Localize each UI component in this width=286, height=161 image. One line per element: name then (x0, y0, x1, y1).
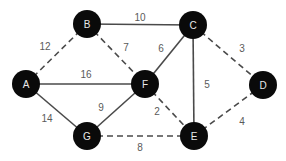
node-label: G (83, 131, 91, 142)
node-a: A (12, 70, 40, 98)
edge-weight-a-b: 12 (39, 41, 51, 52)
node-e: E (180, 122, 208, 150)
node-label: C (189, 20, 196, 31)
edge-c-e (193, 25, 194, 136)
node-b: B (73, 10, 101, 38)
node-label: D (259, 80, 266, 91)
node-c: C (179, 11, 207, 39)
node-label: F (142, 79, 148, 90)
weighted-graph-diagram: 1210716146359284 ABCDEFG (0, 0, 286, 161)
node-label: B (84, 19, 91, 30)
edge-weight-g-e: 8 (137, 142, 143, 153)
node-f: F (131, 70, 159, 98)
edge-weight-f-e: 2 (154, 106, 160, 117)
node-label: E (191, 131, 198, 142)
edge-weight-b-f: 7 (123, 42, 129, 53)
edge-weight-b-c: 10 (134, 12, 146, 23)
edge-weight-c-d: 3 (239, 43, 245, 54)
edge-b-c (87, 24, 193, 25)
edge-weight-f-g: 9 (98, 102, 104, 113)
node-d: D (249, 71, 277, 99)
edge-weight-a-g: 14 (41, 113, 53, 124)
node-label: A (23, 79, 30, 90)
edge-weight-a-f: 16 (80, 69, 92, 80)
nodes-layer: ABCDEFG (12, 10, 277, 150)
node-g: G (73, 122, 101, 150)
edge-weight-d-e: 4 (239, 116, 245, 127)
edge-weight-c-e: 5 (204, 79, 210, 90)
edge-weight-c-f: 6 (158, 43, 164, 54)
